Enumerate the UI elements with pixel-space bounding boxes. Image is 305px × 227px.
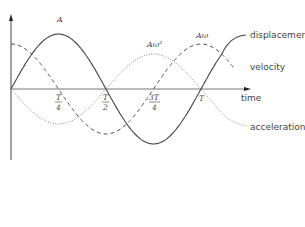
- label-displacement: displacement: [250, 30, 305, 40]
- shm-diagram: A Aω Aω² displacement velocity time acce…: [0, 0, 305, 227]
- amplitude-label-displacement: A: [56, 15, 63, 24]
- label-time: time: [241, 93, 262, 103]
- tick-3t-over-4: 3T 4: [149, 93, 160, 112]
- tick-t: T: [199, 94, 205, 103]
- tick-t-over-2: T 2: [102, 93, 109, 112]
- y-axis-arrow-icon: [9, 14, 13, 21]
- svg-text:4: 4: [55, 103, 61, 112]
- svg-text:3T: 3T: [149, 93, 160, 102]
- svg-text:T: T: [103, 93, 109, 102]
- amplitude-label-acceleration: Aω²: [146, 40, 163, 49]
- label-velocity: velocity: [250, 62, 286, 72]
- svg-text:4: 4: [151, 103, 157, 112]
- acceleration-curve: [11, 54, 248, 126]
- label-acceleration: acceleration: [250, 122, 305, 132]
- time-axis-arrow-icon: [244, 87, 251, 91]
- svg-text:2: 2: [102, 103, 108, 112]
- amplitude-label-velocity: Aω: [195, 31, 209, 40]
- svg-text:T: T: [56, 93, 62, 102]
- tick-t-over-4: T 4: [55, 93, 62, 112]
